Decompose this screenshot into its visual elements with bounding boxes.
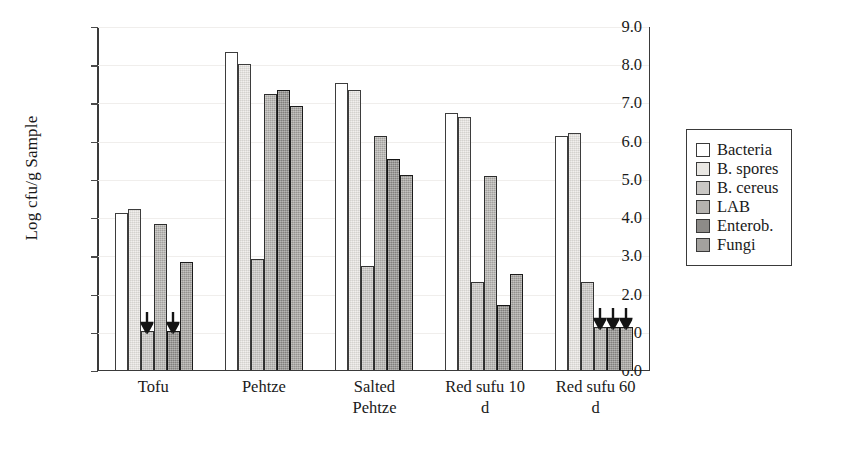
bar[interactable]: [568, 133, 581, 370]
below-detection-arrow-icon: [141, 312, 154, 334]
y-tick-mark: [91, 218, 98, 219]
bar[interactable]: [581, 282, 594, 370]
plot-area: 9.08.07.06.05.04.03.02.01.00.0: [97, 27, 650, 371]
below-detection-arrow-icon: [620, 308, 633, 330]
bar[interactable]: [445, 113, 458, 369]
y-tick-mark: [91, 371, 98, 372]
bar[interactable]: [484, 176, 497, 369]
below-detection-arrow-icon: [594, 308, 607, 330]
bar[interactable]: [458, 117, 471, 369]
bar[interactable]: [154, 224, 167, 369]
bar-set: [555, 27, 633, 370]
bar-group: [99, 27, 209, 370]
bar-group: [429, 27, 539, 370]
bar[interactable]: [251, 259, 264, 370]
bar-set: [225, 27, 303, 370]
legend-swatch: [696, 200, 710, 214]
bar[interactable]: [167, 331, 180, 369]
legend-item[interactable]: B. cereus: [696, 180, 778, 197]
below-detection-arrow-icon: [607, 308, 620, 330]
legend-swatch: [696, 219, 710, 233]
y-tick-mark: [91, 256, 98, 257]
x-tick-label: Tofu: [98, 376, 209, 418]
bar[interactable]: [400, 175, 413, 370]
bar-groups: [99, 27, 649, 370]
bar-set: [445, 27, 523, 370]
bar-group: [539, 27, 649, 370]
y-tick-mark: [91, 103, 98, 104]
bar[interactable]: [510, 274, 523, 370]
bar[interactable]: [361, 266, 374, 369]
x-tick-label: Red sufu 60 d: [540, 376, 651, 418]
legend-label: B. spores: [717, 161, 778, 178]
x-axis-labels: TofuPehtzeSalted PehtzeRed sufu 10 dRed …: [98, 376, 651, 418]
bar[interactable]: [594, 327, 607, 369]
legend-swatch: [696, 162, 710, 176]
legend-swatch: [696, 181, 710, 195]
bar[interactable]: [128, 209, 141, 370]
bar[interactable]: [555, 136, 568, 369]
x-axis-line: [97, 370, 650, 372]
legend-label: Enterob.: [717, 218, 773, 235]
bar[interactable]: [115, 213, 128, 370]
figure: Log cfu/g Sample 9.08.07.06.05.04.03.02.…: [0, 0, 841, 450]
y-axis-title: Log cfu/g Sample: [22, 58, 42, 298]
bar[interactable]: [264, 94, 277, 369]
bar[interactable]: [387, 159, 400, 369]
bar-group: [209, 27, 319, 370]
legend-swatch: [696, 143, 710, 157]
plot-right-border: [649, 27, 651, 371]
bar[interactable]: [607, 327, 620, 369]
y-tick-mark: [91, 333, 98, 334]
bar[interactable]: [277, 90, 290, 369]
legend-item[interactable]: Fungi: [696, 237, 778, 254]
bar[interactable]: [471, 282, 484, 370]
bar[interactable]: [620, 327, 633, 369]
legend-label: Fungi: [717, 237, 756, 254]
bar[interactable]: [374, 136, 387, 369]
bar[interactable]: [238, 64, 251, 370]
bar-set: [115, 27, 193, 370]
legend-item[interactable]: B. spores: [696, 161, 778, 178]
legend-item[interactable]: Enterob.: [696, 218, 778, 235]
bar[interactable]: [141, 331, 154, 369]
legend-label: B. cereus: [717, 180, 778, 197]
legend-label: LAB: [717, 199, 750, 216]
bar[interactable]: [497, 305, 510, 370]
bar[interactable]: [225, 52, 238, 369]
bar-group: [319, 27, 429, 370]
x-tick-label: Salted Pehtze: [319, 376, 430, 418]
legend-item[interactable]: LAB: [696, 199, 778, 216]
y-tick-mark: [91, 27, 98, 28]
bar[interactable]: [290, 106, 303, 370]
y-tick-mark: [91, 142, 98, 143]
bar[interactable]: [348, 90, 361, 369]
legend: BacteriaB. sporesB. cereusLABEnterob.Fun…: [686, 129, 792, 266]
below-detection-arrow-icon: [167, 312, 180, 334]
legend-label: Bacteria: [717, 142, 772, 159]
legend-swatch: [696, 238, 710, 252]
y-tick-mark: [91, 65, 98, 66]
bar[interactable]: [180, 262, 193, 369]
legend-item[interactable]: Bacteria: [696, 142, 778, 159]
x-tick-label: Pehtze: [209, 376, 320, 418]
y-tick-mark: [91, 180, 98, 181]
bar[interactable]: [335, 83, 348, 370]
bar-set: [335, 27, 413, 370]
x-tick-label: Red sufu 10 d: [430, 376, 541, 418]
y-tick-mark: [91, 295, 98, 296]
